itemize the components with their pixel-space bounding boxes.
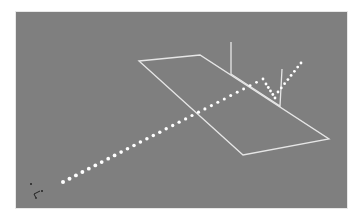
- scene-canvas: [0, 0, 360, 219]
- trajectory-dot: [165, 127, 168, 130]
- trajectory-dot: [61, 180, 65, 184]
- trajectory-dot: [80, 170, 84, 174]
- trajectory-dot: [277, 91, 280, 94]
- trajectory-dot: [152, 134, 155, 137]
- trajectory-dot: [216, 101, 219, 104]
- ground-plane: [139, 55, 329, 155]
- trajectory-dot: [255, 81, 258, 84]
- trajectory-dot: [158, 130, 161, 133]
- trajectory-dot: [296, 66, 299, 69]
- trajectory-dot: [236, 91, 239, 94]
- trajectory-dot: [68, 177, 72, 181]
- trajectory-dot: [190, 114, 193, 117]
- trajectory-dot: [271, 93, 274, 96]
- trajectory-dot: [262, 78, 265, 81]
- trajectory-dot: [223, 97, 226, 100]
- trajectory-dot: [119, 150, 123, 154]
- trajectory-dot: [184, 117, 187, 120]
- trajectory-dot: [126, 147, 130, 151]
- trajectory-dot: [300, 62, 303, 65]
- trajectory-dot: [113, 154, 117, 158]
- trajectory-dot: [139, 140, 143, 144]
- trajectory-dot: [93, 164, 97, 168]
- trajectory-dot: [293, 70, 296, 73]
- trajectory-dot: [171, 124, 174, 127]
- trajectory-dot: [290, 74, 293, 77]
- trajectory-dot: [177, 121, 180, 124]
- trajectory-dot: [287, 78, 290, 81]
- trajectory-dot: [210, 104, 213, 107]
- trajectory-dot: [267, 86, 270, 89]
- trajectory-dot: [229, 94, 232, 97]
- trajectory-dot: [106, 157, 110, 161]
- trajectory-dot: [269, 90, 272, 93]
- trajectory-dot: [203, 107, 206, 110]
- trajectory-dot: [280, 87, 283, 90]
- trajectory-dot: [265, 83, 268, 86]
- trajectory-dot: [145, 137, 149, 141]
- ball-trajectory: [61, 62, 302, 184]
- trajectory-dot: [283, 82, 286, 85]
- trajectory-dot: [100, 160, 104, 164]
- trajectory-dot: [249, 84, 252, 87]
- trajectory-dot: [197, 111, 200, 114]
- vertical-panel: [231, 42, 282, 106]
- axis-gizmo-icon: [30, 183, 43, 199]
- trajectory-dot: [242, 88, 245, 91]
- trajectory-dot: [132, 144, 136, 148]
- trajectory-dot: [274, 97, 277, 100]
- trajectory-dot: [87, 167, 91, 171]
- trajectory-dot: [74, 173, 78, 177]
